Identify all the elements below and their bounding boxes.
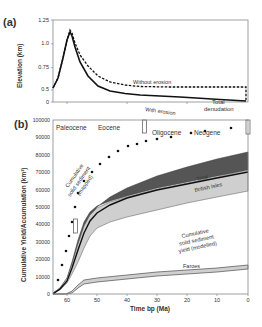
xtick-label: 0 (246, 297, 249, 303)
total-denudation-label-2: denudation (204, 106, 234, 112)
ytick-label: 30000 (36, 239, 51, 245)
panel-a-ylabel: Elevation (km) (16, 44, 24, 88)
ytick-label: 60000 (36, 187, 51, 193)
panel-a-axes (53, 20, 248, 102)
panel-b: (b) 100000 90000 80000 70000 60000 50000… (14, 117, 250, 313)
figure: (a) 1.25 1.0 0.75 0.5 0.25 0 Elevation (… (0, 0, 262, 327)
epoch-paleocene: Paleocene (56, 124, 87, 131)
epoch-oligocene: Oligocene (152, 129, 182, 137)
xtick-label: 40 (124, 297, 130, 303)
panel-a-ytick-marks (51, 20, 187, 104)
epoch-eocene: Eocene (98, 124, 120, 131)
faroes-label: Faroes (183, 263, 200, 269)
ytick-label: 40000 (36, 221, 51, 227)
xtick-label: 50 (94, 297, 100, 303)
ytick-label: 10000 (36, 274, 51, 280)
ytick-label: 80000 (36, 152, 51, 158)
ytick-label: 20000 (36, 256, 51, 262)
panel-b-yticks: 100000 90000 80000 70000 60000 50000 400… (33, 117, 50, 297)
panel-b-ylabel: Cumulative Yield/Accumulation (km³) (20, 168, 28, 283)
ytick-label: 0.75 (38, 64, 49, 70)
xtick-label: 30 (154, 297, 160, 303)
ytick-label: 90000 (36, 134, 51, 140)
xtick-label: 10 (214, 297, 220, 303)
ytick-label: 1.0 (41, 40, 49, 46)
panel-b-xlabel: Time bp (Ma) (130, 305, 170, 313)
error-box (143, 120, 147, 133)
modelled-label: Cumulative solid sediment yield (modelle… (175, 226, 217, 254)
with-erosion-label: With erosion (145, 106, 176, 116)
error-box (74, 219, 78, 233)
epoch-neogene: Neogene (194, 129, 221, 137)
ytick-label: 70000 (36, 169, 51, 175)
faroes-band (53, 265, 248, 294)
xtick-label: 20 (184, 297, 190, 303)
ytick-label: 0 (47, 291, 50, 297)
panel-a: (a) 1.25 1.0 0.75 0.5 0.25 0 Elevation (… (3, 16, 248, 116)
with-erosion-line (53, 32, 246, 101)
ytick-label: 50000 (36, 204, 51, 210)
ytick-label: 100000 (33, 117, 50, 123)
panel-a-yticks: 1.25 1.0 0.75 0.5 0.25 0 (38, 17, 49, 105)
ytick-label: 1.25 (38, 17, 49, 23)
total-denudation-label-1: Total (212, 99, 225, 105)
without-erosion-label: Without erosion (133, 79, 171, 85)
xtick-label: 60 (64, 297, 70, 303)
panel-b-xticks: 60 50 40 30 20 10 0 (64, 297, 250, 303)
mapped-label: Cumulative solid sediment (mapped) (60, 161, 97, 202)
ytick-label: 0.5 (41, 86, 49, 92)
ytick-label: 0 (46, 99, 49, 105)
panel-b-label: (b) (14, 118, 28, 130)
panel-a-label: (a) (3, 16, 17, 28)
